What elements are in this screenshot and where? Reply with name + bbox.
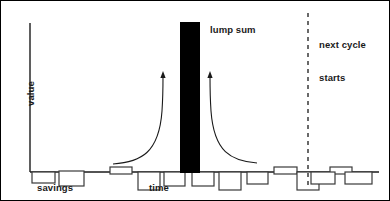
lump-sum-bar — [180, 22, 200, 173]
savings-label: savings — [37, 182, 73, 193]
left-curved-arrow — [113, 76, 163, 164]
savings-boxes-group — [32, 167, 372, 190]
savings-box — [192, 172, 214, 186]
next-cycle-label: next cycle starts — [319, 17, 366, 105]
savings-box — [110, 167, 132, 174]
savings-box — [247, 172, 268, 184]
right-curved-arrow — [210, 76, 257, 163]
savings-box — [274, 167, 297, 174]
diagram-canvas: lump sum next cycle starts savings time … — [0, 0, 390, 201]
time-axis-label: time — [149, 182, 169, 193]
next-cycle-label-line2: starts — [319, 72, 366, 83]
lump-sum-label: lump sum — [210, 24, 256, 35]
savings-box — [345, 172, 372, 184]
savings-box — [311, 172, 335, 184]
right-arrow-head — [207, 71, 212, 78]
next-cycle-label-line1: next cycle — [319, 39, 366, 50]
value-axis-label: value — [25, 81, 36, 106]
savings-box — [219, 172, 241, 190]
left-arrow-head — [160, 71, 165, 78]
